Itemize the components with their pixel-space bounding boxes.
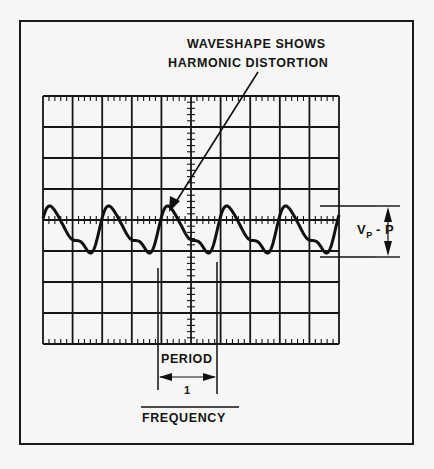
period-arrow-right-icon xyxy=(203,373,216,381)
annotation-pointer-line xyxy=(174,72,258,205)
vpp-label: VP- P xyxy=(357,222,394,237)
formula-denominator: FREQUENCY xyxy=(142,411,226,425)
period-arrow-left-icon xyxy=(159,373,172,381)
vpp-arrow-up-icon xyxy=(384,207,392,222)
period-label: PERIOD xyxy=(161,352,213,366)
formula-numerator: 1 xyxy=(184,384,191,396)
vpp-arrow-down-icon xyxy=(384,241,392,256)
